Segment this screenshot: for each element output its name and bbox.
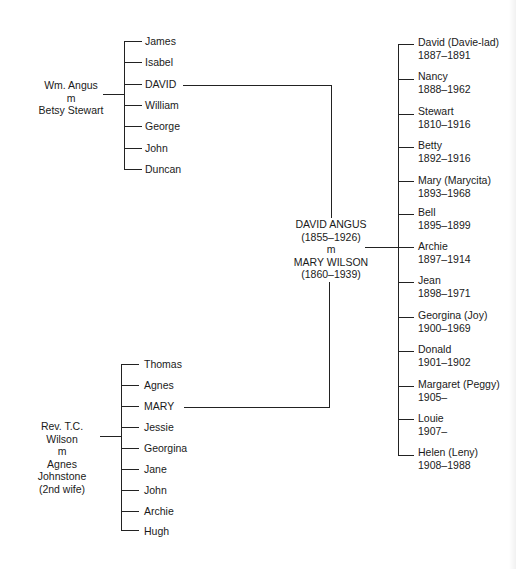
child-entry: Donald 1901–1902	[418, 343, 471, 368]
sibling-name: John	[144, 484, 167, 496]
sibling-tick	[121, 385, 139, 386]
child-dates: 1900–1969	[418, 322, 487, 335]
child-tick	[398, 282, 414, 283]
child-entry: David (Davie-lad) 1887–1891	[418, 36, 499, 61]
child-tick	[398, 147, 414, 148]
mary-connector	[184, 407, 330, 408]
child-dates: 1810–1916	[418, 118, 471, 131]
maternal-parent-connector	[100, 436, 121, 437]
wife-dates: (1860–1939)	[276, 268, 386, 281]
child-entry: Stewart 1810–1916	[418, 105, 471, 130]
child-dates: 1897–1914	[418, 253, 471, 266]
maternal-mother-note: (2nd wife)	[24, 483, 100, 496]
child-tick	[398, 351, 414, 352]
child-entry: Mary (Marycita) 1893–1968	[418, 174, 491, 199]
husband-name: DAVID ANGUS	[276, 218, 386, 231]
child-tick	[398, 114, 414, 115]
child-name: Nancy	[418, 70, 471, 83]
paternal-mother: Betsy Stewart	[38, 104, 104, 117]
child-dates: 1888–1962	[418, 83, 471, 96]
child-entry: Georgina (Joy) 1900–1969	[418, 309, 487, 334]
marriage-mark: m	[276, 243, 386, 256]
sibling-name: George	[145, 120, 180, 132]
sibling-tick	[124, 126, 142, 127]
sibling-tick	[121, 427, 139, 428]
child-name: Betty	[418, 139, 471, 152]
child-tick	[398, 214, 414, 215]
marriage-mark: m	[38, 92, 104, 105]
child-tick	[398, 317, 414, 318]
child-name: Helen (Leny)	[418, 446, 478, 459]
couple-block: DAVID ANGUS (1855–1926) m MARY WILSON (1…	[276, 218, 386, 281]
maternal-parents: Rev. T.C. Wilson m Agnes Johnstone (2nd …	[24, 420, 100, 495]
maternal-father: Rev. T.C. Wilson	[24, 420, 100, 445]
sibling-tick	[121, 490, 139, 491]
child-name: Bell	[418, 206, 471, 219]
sibling-name: John	[145, 142, 168, 154]
sibling-tick	[121, 469, 139, 470]
sibling-name-david: DAVID	[145, 78, 176, 90]
maternal-mother: Agnes Johnstone	[24, 458, 100, 483]
sibling-name: Jane	[144, 463, 167, 475]
child-entry: Nancy 1888–1962	[418, 70, 471, 95]
child-dates: 1898–1971	[418, 287, 471, 300]
child-dates: 1908–1988	[418, 459, 478, 472]
couple-to-children-connector	[365, 247, 398, 248]
sibling-name: Georgina	[144, 442, 187, 454]
mary-rise-line	[329, 282, 330, 407]
sibling-name: Duncan	[145, 163, 181, 175]
child-tick	[398, 79, 414, 80]
child-tick	[398, 419, 414, 420]
child-entry: Bell 1895–1899	[418, 206, 471, 231]
child-entry: Betty 1892–1916	[418, 139, 471, 164]
child-dates: 1907–	[418, 425, 447, 438]
child-name: Mary (Marycita)	[418, 174, 491, 187]
sibling-name: Thomas	[144, 358, 182, 370]
paternal-parent-connector	[103, 94, 124, 95]
david-connector	[183, 85, 331, 86]
sibling-name: Archie	[144, 505, 174, 517]
child-name: Archie	[418, 240, 471, 253]
sibling-name-mary: MARY	[144, 400, 174, 412]
child-tick	[398, 386, 414, 387]
sibling-name: Jessie	[144, 421, 174, 433]
sibling-name: Hugh	[144, 525, 169, 537]
children-bracket	[398, 44, 399, 456]
child-name: Louie	[418, 412, 447, 425]
sibling-name: Isabel	[145, 56, 173, 68]
david-drop-line	[331, 85, 332, 218]
child-tick	[398, 44, 414, 45]
child-tick	[398, 181, 414, 182]
child-tick	[398, 247, 414, 248]
child-name: Stewart	[418, 105, 471, 118]
page-edge-shadow	[509, 0, 516, 569]
child-entry: Helen (Leny) 1908–1988	[418, 446, 478, 471]
sibling-tick	[121, 406, 139, 407]
child-tick	[398, 455, 414, 456]
child-name: Margaret (Peggy)	[418, 378, 500, 391]
child-name: David (Davie-lad)	[418, 36, 499, 49]
child-name: Jean	[418, 274, 471, 287]
sibling-tick	[124, 169, 142, 170]
marriage-mark: m	[24, 445, 100, 458]
sibling-tick	[124, 84, 142, 85]
husband-dates: (1855–1926)	[276, 231, 386, 244]
sibling-tick	[124, 62, 142, 63]
child-dates: 1895–1899	[418, 219, 471, 232]
child-entry: Jean 1898–1971	[418, 274, 471, 299]
sibling-tick	[121, 530, 139, 531]
child-entry: Archie 1897–1914	[418, 240, 471, 265]
child-dates: 1887–1891	[418, 49, 499, 62]
paternal-father: Wm. Angus	[38, 79, 104, 92]
wife-name: MARY WILSON	[276, 256, 386, 269]
child-name: Donald	[418, 343, 471, 356]
sibling-tick	[124, 148, 142, 149]
sibling-tick	[121, 364, 139, 365]
child-dates: 1892–1916	[418, 152, 471, 165]
sibling-name: Agnes	[144, 379, 174, 391]
child-dates: 1893–1968	[418, 187, 491, 200]
child-entry: Margaret (Peggy) 1905–	[418, 378, 500, 403]
sibling-tick	[124, 105, 142, 106]
sibling-tick	[121, 511, 139, 512]
child-entry: Louie 1907–	[418, 412, 447, 437]
